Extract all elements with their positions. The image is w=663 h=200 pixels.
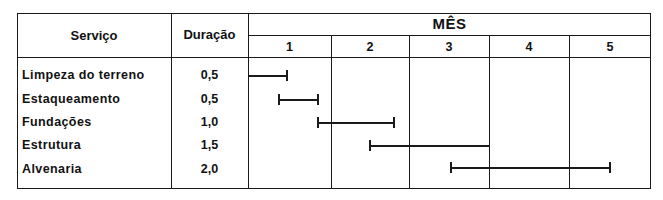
service-name: Alvenaria	[22, 162, 82, 176]
month-label-1: 1	[248, 40, 331, 54]
column-header-duration: Duração	[171, 27, 248, 42]
gantt-bar	[248, 75, 288, 77]
bar-end-cap	[286, 70, 288, 81]
service-name: Estaqueamento	[22, 92, 120, 106]
service-name: Limpeza do terreno	[22, 68, 145, 82]
bar-end-cap	[393, 117, 395, 128]
bar-end-cap	[317, 94, 319, 105]
service-name: Fundações	[22, 115, 92, 129]
bar-start-cap	[450, 162, 452, 173]
column-header-month-group: MÊS	[248, 15, 651, 32]
divider-header-body	[17, 57, 651, 58]
column-header-service: Serviço	[17, 28, 171, 43]
bar-start-cap	[317, 117, 319, 128]
gantt-bar	[450, 167, 611, 169]
month-label-2: 2	[331, 40, 409, 54]
bar-start-cap	[369, 140, 371, 151]
duration-value: 1,5	[171, 138, 248, 152]
duration-value: 0,5	[171, 68, 248, 82]
gantt-bar	[369, 145, 490, 147]
duration-value: 0,5	[171, 92, 248, 106]
duration-value: 2,0	[171, 162, 248, 176]
month-label-4: 4	[489, 40, 569, 54]
month-label-3: 3	[409, 40, 489, 54]
gantt-bar	[317, 122, 396, 124]
gantt-bar	[278, 99, 319, 101]
bar-start-cap	[278, 94, 280, 105]
bar-end-cap	[609, 162, 611, 173]
divider-mes-header	[248, 35, 651, 36]
month-label-5: 5	[569, 40, 651, 54]
duration-value: 1,0	[171, 115, 248, 129]
service-name: Estrutura	[22, 138, 81, 152]
